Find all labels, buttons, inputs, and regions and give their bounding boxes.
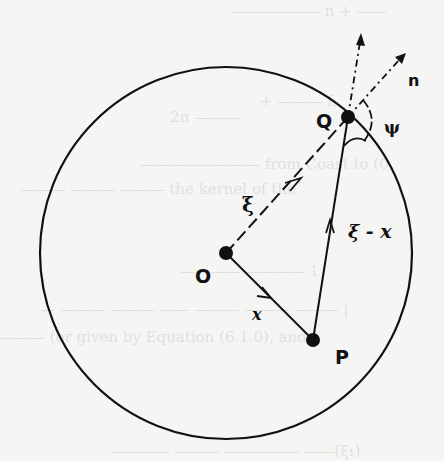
label-q: Q <box>316 110 332 132</box>
label-xi-minus-x: ξ - x <box>348 220 392 242</box>
point-p-dot <box>306 333 320 347</box>
point-o-dot <box>219 246 233 260</box>
label-o: O <box>195 265 211 287</box>
angle-q-arc <box>344 138 366 146</box>
label-psi: ψ <box>384 117 400 137</box>
point-q-dot <box>341 110 355 124</box>
normal-n-line <box>348 60 399 117</box>
extension-arrowhead-icon <box>356 33 365 46</box>
extension-line <box>348 42 360 117</box>
label-n: n <box>408 71 419 90</box>
label-p: P <box>335 346 349 368</box>
diagram-canvas: —————— n + —— + ——— fᵢ 2π ——— ———————— f… <box>0 0 444 461</box>
label-x: x <box>251 305 262 324</box>
vector-x-arrowhead-icon <box>257 287 271 298</box>
label-xi: ξ <box>242 193 254 217</box>
figure-svg: O P Q n ξ x ξ - x ψ <box>0 0 444 461</box>
